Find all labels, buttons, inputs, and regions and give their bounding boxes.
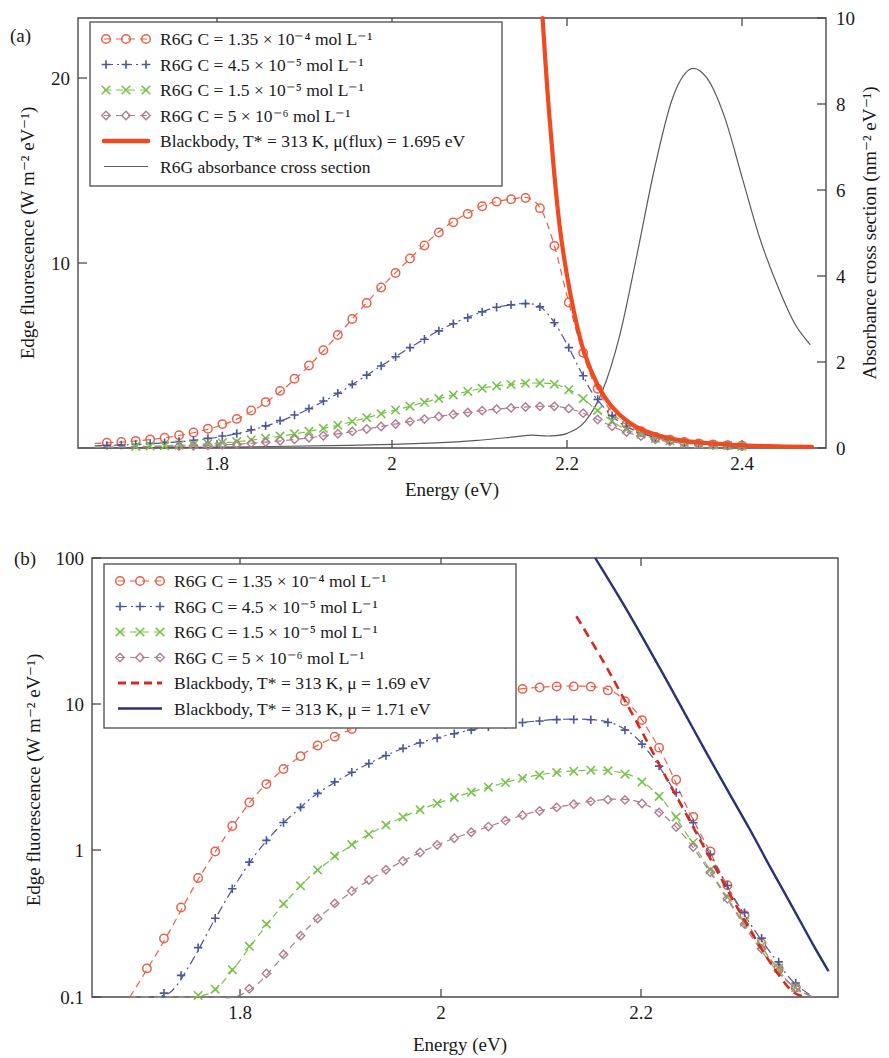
panel-b-ytick-3: 100	[56, 548, 85, 569]
panel-a-ytick-right-2: 4	[836, 266, 846, 287]
panel-a-legend-label-4: Blackbody, T* = 313 K, μ(flux) = 1.695 e…	[160, 131, 466, 151]
panel-b-legend-label-1: R6G C = 4.5 × 10⁻⁵ mol L⁻¹	[174, 597, 378, 617]
panel-a-ytick-right-0: 0	[836, 438, 846, 459]
series-line	[130, 770, 813, 997]
panel-a-ylabel-left: Edge fluorescence (W m⁻² eV⁻¹)	[17, 107, 39, 360]
panel-a-legend-label-5: R6G absorbance cross section	[160, 157, 371, 177]
panel-a-legend-label-1: R6G C = 4.5 × 10⁻⁵ mol L⁻¹	[160, 55, 364, 75]
panel-a-legend-label-0: R6G C = 1.35 × 10⁻⁴ mol L⁻¹	[160, 29, 372, 49]
panel-a-ytick-right-3: 6	[836, 180, 846, 201]
panel-b-legend-label-0: R6G C = 1.35 × 10⁻⁴ mol L⁻¹	[174, 571, 386, 591]
panel-b-tag: (b)	[14, 548, 36, 570]
panel-a-xtick-3: 2.4	[730, 453, 754, 474]
panel-b-y-ticks	[92, 558, 101, 997]
panel-a: 1.8 2 2.2 2.4 10 20 0 2 4 6	[0, 0, 889, 500]
panel-a-xlabel: Energy (eV)	[405, 479, 499, 501]
panel-b-ytick-0: 0.1	[60, 987, 84, 1008]
blackbody-169-curve	[576, 616, 807, 997]
panel-b-legend-label-3: R6G C = 5 × 10⁻⁶ mol L⁻¹	[174, 648, 365, 668]
panel-a-tag: (a)	[10, 25, 31, 47]
panel-a-ytick-left-1: 20	[51, 68, 70, 89]
panel-a-legend: R6G C = 1.35 × 10⁻⁴ mol L⁻¹R6G C = 4.5 ×…	[90, 22, 502, 186]
panel-a-ytick-right-1: 2	[836, 352, 846, 373]
panel-a-ylabel-right: Absorbance cross section (nm⁻² eV⁻¹)	[859, 86, 881, 379]
panel-b-legend-label-2: R6G C = 1.5 × 10⁻⁵ mol L⁻¹	[174, 622, 378, 642]
panel-a-xtick-0: 1.8	[205, 453, 229, 474]
panel-a-ytick-right-5: 10	[836, 8, 855, 29]
panel-a-y-ticks-right	[817, 18, 826, 448]
figure-root: 1.8 2 2.2 2.4 10 20 0 2 4 6	[0, 0, 889, 1058]
panel-b: 1.8 2 2.2 0.1 1 10 100 (b) Energy (eV) E…	[0, 500, 889, 1058]
panel-a-xtick-2: 2.2	[555, 453, 579, 474]
panel-b-xtick-2: 2.2	[629, 1002, 653, 1023]
panel-b-svg: 1.8 2 2.2 0.1 1 10 100 (b) Energy (eV) E…	[0, 500, 889, 1058]
panel-b-xtick-0: 1.8	[228, 1002, 252, 1023]
panel-a-legend-label-3: R6G C = 5 × 10⁻⁶ mol L⁻¹	[160, 106, 351, 126]
blackbody-171-curve	[595, 558, 828, 971]
panel-a-legend-label-2: R6G C = 1.5 × 10⁻⁵ mol L⁻¹	[160, 80, 364, 100]
panel-b-ylabel: Edge fluorescence (W m⁻² eV⁻¹)	[23, 654, 45, 907]
panel-b-xlabel: Energy (eV)	[413, 1034, 507, 1056]
panel-b-legend: R6G C = 1.35 × 10⁻⁴ mol L⁻¹R6G C = 4.5 ×…	[104, 564, 516, 728]
series-line	[95, 383, 812, 447]
blackbody-curve-a	[543, 18, 812, 447]
panel-a-ytick-right-4: 8	[836, 94, 846, 115]
panel-b-legend-label-4: Blackbody, T* = 313 K, μ = 1.69 eV	[174, 673, 431, 693]
panel-b-ytick-1: 1	[75, 840, 85, 861]
panel-a-ytick-left-0: 10	[51, 253, 70, 274]
panel-a-y-ticks-left	[78, 78, 87, 263]
panel-a-svg: 1.8 2 2.2 2.4 10 20 0 2 4 6	[0, 0, 889, 500]
panel-b-legend-label-5: Blackbody, T* = 313 K, μ = 1.71 eV	[174, 699, 431, 719]
panel-b-xtick-1: 2	[436, 1002, 446, 1023]
panel-b-ytick-2: 10	[65, 694, 84, 715]
panel-a-xtick-1: 2	[387, 453, 397, 474]
